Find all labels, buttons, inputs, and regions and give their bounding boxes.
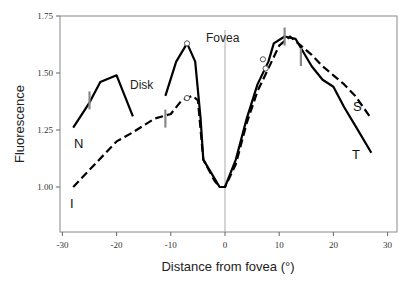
series-label-t: T — [352, 147, 360, 162]
open-circle-marker — [184, 95, 189, 100]
y-tick-label: 1.25 — [37, 125, 53, 135]
series-line-i-s — [73, 37, 371, 188]
disk-annotation: Disk — [130, 78, 154, 92]
fluorescence-chart: 1.001.251.501.75 -30-20-100102030 Fovea … — [0, 0, 416, 281]
x-tick-label: -20 — [111, 240, 123, 250]
x-axis: -30-20-100102030 — [56, 232, 392, 250]
series-line-t — [165, 37, 371, 188]
series-label-i: I — [70, 196, 74, 211]
series-layer — [73, 37, 371, 188]
x-tick-label: 30 — [383, 240, 393, 250]
series-line-n — [73, 75, 133, 127]
marker-layer — [90, 28, 301, 128]
y-tick-label: 1.00 — [37, 182, 53, 192]
series-label-s: S — [353, 99, 362, 114]
series-label-n: N — [74, 136, 83, 151]
x-tick-label: -10 — [165, 240, 177, 250]
x-tick-label: -30 — [56, 240, 68, 250]
y-tick-label: 1.50 — [37, 68, 53, 78]
open-circle-marker — [260, 57, 265, 62]
x-tick-label: 0 — [223, 240, 228, 250]
plot-frame — [60, 16, 397, 232]
open-circle-marker — [184, 41, 189, 46]
open-circle-marker — [263, 66, 268, 71]
x-tick-label: 20 — [329, 240, 339, 250]
fovea-annotation: Fovea — [206, 31, 240, 45]
x-axis-title: Distance from fovea (°) — [161, 259, 294, 274]
y-axis-title: Fluorescence — [12, 85, 27, 163]
series-labels: NIST — [70, 99, 362, 211]
y-axis: 1.001.251.501.75 — [37, 11, 60, 192]
y-tick-label: 1.75 — [37, 11, 53, 21]
x-tick-label: 10 — [275, 240, 285, 250]
